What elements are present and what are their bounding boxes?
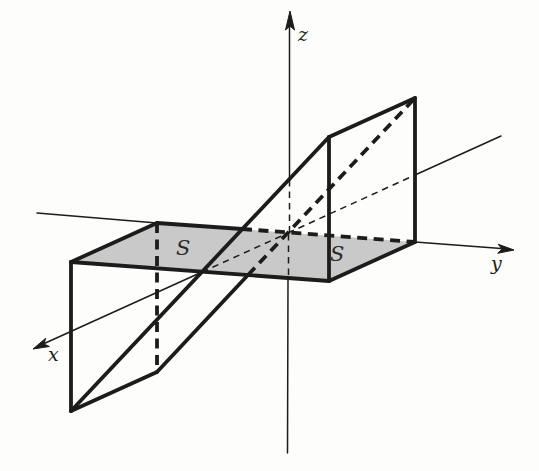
axis-label-x: x: [48, 343, 59, 365]
y-axis-left-segment: [37, 213, 157, 223]
z-axis-bottom-segment: [288, 279, 289, 453]
x-axis-arrowhead: [33, 338, 49, 349]
x-axis-back-hidden-segment: [288, 175, 415, 233]
axis-label-z: z: [297, 23, 309, 45]
region-s-strip: [71, 223, 415, 281]
x-axis-front-segment: [41, 272, 202, 345]
y-axis-right-segment: [415, 242, 508, 249]
plane-right-short-edge: [329, 98, 415, 137]
plane-left-short-edge: [71, 372, 157, 411]
figure-plane-over-region-s: zyxSS: [0, 0, 539, 471]
x-axis-back-segment: [415, 136, 501, 175]
axis-label-y: y: [490, 252, 502, 274]
plane-back-long-edge-visible: [157, 275, 248, 372]
region-label-s-left: S: [176, 236, 190, 260]
region-label-s-right: S: [330, 242, 344, 266]
figure-canvas: zyxSS: [0, 0, 539, 471]
